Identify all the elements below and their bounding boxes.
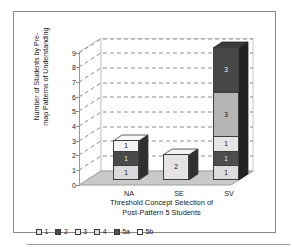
bar-sv-label-3: 1 bbox=[214, 141, 238, 148]
bar-na-label-2: 1 bbox=[114, 155, 138, 162]
x-axis-title-line1: Threshold Concept Selection of bbox=[54, 198, 269, 208]
y-tick-label-2: 2 bbox=[63, 152, 76, 159]
y-tick-mark-1 bbox=[76, 170, 80, 171]
bar-sv-segment-2[interactable]: 1 bbox=[213, 151, 239, 166]
bar-na-label-1: 1 bbox=[114, 169, 138, 176]
legend-label-5b: 5b bbox=[145, 228, 153, 235]
legend-swatch-icon-3 bbox=[75, 229, 81, 235]
legend-item-2[interactable]: 2 bbox=[55, 228, 67, 235]
bar-sv-segment-1[interactable]: 1 bbox=[213, 165, 239, 180]
bar-sv-label-5: 3 bbox=[214, 67, 238, 74]
y-tick-mark-3 bbox=[76, 141, 80, 142]
bar-na-label-3: 1 bbox=[114, 143, 138, 150]
y-tick-mark-8 bbox=[76, 67, 80, 68]
y-tick-mark-2 bbox=[76, 155, 80, 156]
legend-item-5b[interactable]: 5b bbox=[137, 228, 153, 235]
y-tick-label-7: 7 bbox=[63, 79, 76, 86]
legend-item-1[interactable]: 1 bbox=[36, 228, 48, 235]
chart-figure: Number of Students by Pre- map Patterns … bbox=[0, 0, 292, 247]
legend-label-1: 1 bbox=[45, 228, 49, 235]
legend-item-5a[interactable]: 5a bbox=[114, 228, 130, 235]
bar-se-segment-1[interactable]: 2 bbox=[163, 154, 189, 180]
y-tick-label-0: 0 bbox=[63, 182, 76, 189]
y-tick-mark-9 bbox=[76, 53, 80, 54]
x-category-label-se: SE bbox=[159, 189, 199, 198]
y-tick-label-1: 1 bbox=[63, 167, 76, 174]
x-axis-title-line2: Post-Pattern 5 Students bbox=[54, 208, 269, 218]
bar-na-side-face bbox=[139, 135, 148, 180]
legend-item-4[interactable]: 4 bbox=[94, 228, 106, 235]
bar-na-segment-3[interactable]: 1 bbox=[113, 140, 139, 152]
y-tick-label-5: 5 bbox=[63, 108, 76, 115]
legend-divider bbox=[27, 244, 290, 245]
plot-area: 0 1 2 3 4 5 6 7 8 9 1 bbox=[79, 38, 254, 186]
bar-sv-side-face bbox=[239, 42, 248, 180]
bar-sv-segment-5[interactable]: 3 bbox=[213, 47, 239, 93]
bar-sv-segment-3[interactable]: 1 bbox=[213, 136, 239, 152]
bar-na-segment-1[interactable]: 1 bbox=[113, 165, 139, 180]
y-tick-mark-0 bbox=[76, 185, 80, 186]
legend-swatch-icon-1 bbox=[36, 229, 42, 235]
bar-se-side-face bbox=[189, 149, 198, 180]
y-tick-label-9: 9 bbox=[63, 50, 76, 57]
bar-na-segment-2[interactable]: 1 bbox=[113, 151, 139, 166]
bar-sv[interactable]: 1 1 1 3 3 bbox=[213, 38, 249, 186]
x-category-label-na: NA bbox=[109, 189, 149, 198]
y-tick-label-6: 6 bbox=[63, 94, 76, 101]
bar-se-label-1: 2 bbox=[164, 164, 188, 171]
y-axis-title-line1: Number of Students by Pre- bbox=[33, 2, 42, 152]
legend-label-2: 2 bbox=[64, 228, 68, 235]
y-axis-title-line2: map Patterns of Understanding bbox=[42, 2, 51, 152]
bar-sv-label-1: 1 bbox=[214, 169, 238, 176]
y-axis-title: Number of Students by Pre- map Patterns … bbox=[33, 2, 50, 152]
legend-label-3: 3 bbox=[83, 228, 87, 235]
y-tick-label-4: 4 bbox=[63, 123, 76, 130]
legend-swatch-icon-2 bbox=[55, 229, 61, 235]
legend-swatch-icon-5b bbox=[137, 229, 143, 235]
chart-legend: 1 2 3 4 5a 5b bbox=[36, 228, 153, 235]
y-axis-line bbox=[79, 52, 80, 185]
bar-se[interactable]: 2 bbox=[163, 38, 199, 186]
legend-swatch-icon-5a bbox=[114, 229, 120, 235]
legend-label-5a: 5a bbox=[122, 228, 130, 235]
legend-item-3[interactable]: 3 bbox=[75, 228, 87, 235]
figure-border: Number of Students by Pre- map Patterns … bbox=[13, 11, 276, 233]
y-tick-mark-4 bbox=[76, 126, 80, 127]
legend-swatch-icon-4 bbox=[94, 229, 100, 235]
y-tick-label-8: 8 bbox=[63, 64, 76, 71]
y-tick-mark-6 bbox=[76, 97, 80, 98]
bar-sv-segment-4[interactable]: 3 bbox=[213, 92, 239, 137]
x-category-label-sv: SV bbox=[209, 189, 249, 198]
bar-na[interactable]: 1 1 1 bbox=[113, 38, 149, 186]
legend-label-4: 4 bbox=[103, 228, 107, 235]
y-tick-mark-5 bbox=[76, 111, 80, 112]
x-axis-title: Threshold Concept Selection of Post-Patt… bbox=[54, 198, 269, 218]
bar-sv-label-2: 1 bbox=[214, 155, 238, 162]
y-tick-label-3: 3 bbox=[63, 138, 76, 145]
y-tick-mark-7 bbox=[76, 82, 80, 83]
bar-sv-label-4: 3 bbox=[214, 111, 238, 118]
